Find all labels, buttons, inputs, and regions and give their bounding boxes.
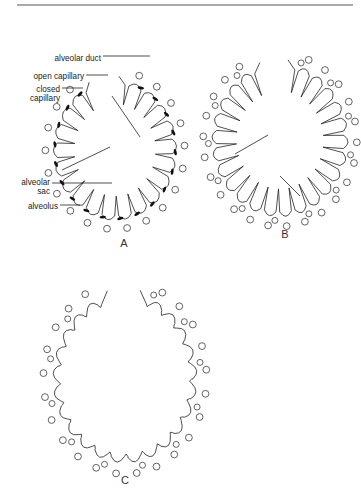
annotation-text: closedcapillary [30, 85, 61, 103]
open-capillary [181, 319, 187, 325]
closed-capillary [69, 196, 76, 202]
open-capillary [48, 417, 55, 424]
open-capillary [133, 470, 140, 477]
annotation-open-capillary: open capillary [33, 72, 108, 81]
annotation-text: open capillary [33, 72, 84, 81]
open-capillary [65, 316, 71, 322]
open-capillary [197, 359, 203, 365]
open-capillary [136, 72, 143, 79]
open-capillary [159, 204, 166, 211]
open-capillary [67, 86, 74, 93]
open-capillary [236, 63, 243, 70]
open-capillary [65, 305, 72, 312]
open-capillary [239, 206, 245, 212]
closed-capillary [77, 91, 83, 98]
open-capillary [84, 219, 91, 226]
open-capillary [201, 154, 208, 161]
open-capillary [333, 187, 339, 193]
open-capillary [234, 73, 240, 79]
panel-label-b: B [281, 228, 288, 240]
annotation-alveolar-sac: alveolarsac [21, 178, 112, 196]
open-capillary [318, 209, 325, 216]
open-capillary [302, 218, 309, 225]
open-capillary [344, 179, 351, 186]
open-capillary [48, 356, 54, 362]
open-capillary [159, 289, 166, 296]
open-capillary [177, 120, 184, 127]
open-capillary [200, 133, 207, 140]
open-capillary [346, 113, 352, 119]
panel-c-alveolar-sac-expanded: C [40, 289, 210, 486]
open-capillary [305, 57, 312, 64]
open-capillary [168, 100, 175, 107]
open-capillary [196, 414, 203, 421]
panel-a-alveolar-sac-normal: A [42, 72, 188, 249]
open-capillary [153, 83, 160, 90]
open-capillary [42, 394, 49, 401]
open-capillary [113, 470, 120, 477]
open-capillary [207, 174, 214, 181]
open-capillary [231, 206, 238, 213]
open-capillary [140, 462, 146, 468]
open-capillary [298, 60, 304, 66]
long-septum [235, 135, 268, 154]
open-capillary [189, 321, 196, 328]
open-capillary [172, 186, 179, 193]
open-capillary [93, 464, 100, 471]
open-capillary [215, 178, 221, 184]
closed-capillary [149, 201, 155, 208]
open-capillary [203, 366, 210, 373]
open-capillary [352, 118, 359, 125]
open-capillary [217, 191, 224, 198]
open-capillary [222, 76, 229, 83]
open-capillary [42, 147, 49, 154]
open-capillary [45, 170, 52, 177]
open-capillary [171, 451, 178, 458]
open-capillary [348, 152, 354, 158]
open-capillary [335, 81, 342, 88]
open-capillary [54, 190, 61, 197]
closed-capillary [53, 141, 57, 148]
annotation-alveolar-duct: alveolar duct [55, 54, 150, 63]
capillary-markers [200, 57, 360, 230]
open-capillary [60, 437, 67, 444]
open-capillary [40, 370, 47, 377]
panel-label-a: A [120, 237, 128, 249]
open-capillary [272, 217, 278, 223]
open-capillary [328, 80, 334, 86]
open-capillary [102, 461, 108, 467]
open-capillary [333, 196, 340, 203]
open-capillary [322, 67, 329, 74]
open-capillary [49, 401, 55, 407]
open-capillary [203, 112, 210, 119]
open-capillary [151, 292, 157, 298]
annotation-labels: alveolar duct open capillary closedcapil… [21, 54, 150, 211]
open-capillary [176, 303, 183, 310]
open-capillary [67, 207, 74, 214]
open-capillary [52, 324, 59, 331]
open-capillary [124, 225, 131, 232]
open-capillary [143, 217, 150, 224]
open-capillary [173, 441, 179, 447]
closed-capillary [152, 96, 159, 102]
open-capillary [199, 343, 206, 350]
open-capillary [44, 346, 51, 353]
open-capillary [351, 160, 358, 167]
open-capillary [82, 291, 89, 298]
alveolar-wall-outline [53, 290, 197, 462]
capillary-markers [40, 289, 210, 477]
open-capillary [181, 142, 188, 149]
open-capillary [306, 211, 312, 217]
open-capillary [75, 453, 82, 460]
open-capillary [212, 103, 218, 109]
open-capillary [45, 124, 52, 131]
open-capillary [265, 222, 272, 229]
open-capillary [205, 141, 211, 147]
closed-capillary [117, 216, 124, 221]
panel-label-c: C [121, 474, 129, 486]
open-capillary [186, 434, 193, 441]
open-capillary [53, 103, 60, 110]
open-capillary [69, 439, 75, 445]
closed-capillary [83, 208, 90, 212]
panel-b-alveolar-sac-open-capillaries: B [200, 57, 360, 241]
